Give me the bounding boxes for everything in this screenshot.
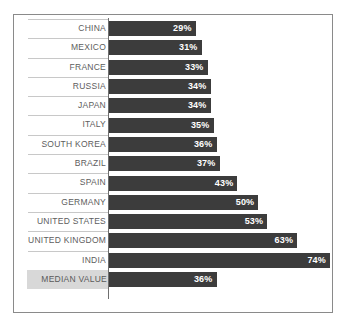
bar: 63% — [109, 233, 297, 248]
bar-value-label: 53% — [245, 214, 264, 229]
chart-row: JAPAN34% — [14, 96, 332, 115]
bar-track: 34% — [109, 79, 330, 94]
bar-track: 29% — [109, 21, 330, 36]
bar-value-label: 31% — [179, 40, 198, 55]
bar-value-label: 36% — [194, 137, 213, 152]
bar: 34% — [109, 98, 211, 113]
bar: 74% — [109, 253, 330, 268]
bar-track: 35% — [109, 118, 330, 133]
bar: 36% — [109, 137, 217, 152]
bar-track: 43% — [109, 176, 330, 191]
bar-value-label: 29% — [173, 21, 192, 36]
chart-row: GERMANY50% — [14, 193, 332, 212]
bar: 43% — [109, 176, 237, 191]
category-label: SPAIN — [28, 173, 106, 192]
bar-track: 74% — [109, 253, 330, 268]
category-label: INDIA — [28, 251, 106, 270]
bar-value-label: 63% — [275, 233, 294, 248]
plot-area: CHINA29%MEXICO31%FRANCE33%RUSSIA34%JAPAN… — [14, 15, 332, 312]
bar-track: 31% — [109, 40, 330, 55]
median-row-label: MEDIAN VALUE — [27, 270, 108, 289]
bar-value-label: 37% — [197, 156, 216, 171]
chart-row: CHINA29% — [14, 19, 332, 38]
chart-row: SOUTH KOREA36% — [14, 135, 332, 154]
chart-row: BRAZIL37% — [14, 154, 332, 173]
bar: 31% — [109, 40, 202, 55]
bar-chart: CHINA29%MEXICO31%FRANCE33%RUSSIA34%JAPAN… — [0, 0, 346, 329]
bar-track: 50% — [109, 195, 330, 210]
chart-row: UNITED KINGDOM63% — [14, 231, 332, 250]
category-label: JAPAN — [28, 96, 106, 115]
chart-row: MEDIAN VALUE36% — [14, 270, 332, 289]
bar: 35% — [109, 118, 214, 133]
category-label: GERMANY — [28, 193, 106, 212]
bar-track: 36% — [109, 137, 330, 152]
chart-row: SPAIN43% — [14, 173, 332, 192]
chart-row: MEXICO31% — [14, 38, 332, 57]
bar-value-label: 35% — [191, 118, 210, 133]
chart-row: ITALY35% — [14, 115, 332, 134]
chart-row: FRANCE33% — [14, 58, 332, 77]
category-label: RUSSIA — [28, 77, 106, 96]
bar-value-label: 33% — [185, 60, 204, 75]
bar-value-label: 34% — [188, 98, 207, 113]
bar-track: 34% — [109, 98, 330, 113]
category-label: UNITED KINGDOM — [28, 231, 106, 250]
chart-row: RUSSIA34% — [14, 77, 332, 96]
bar-track: 33% — [109, 60, 330, 75]
bar: 33% — [109, 60, 208, 75]
bar: 29% — [109, 21, 196, 36]
category-label: CHINA — [28, 19, 106, 38]
chart-rows: CHINA29%MEXICO31%FRANCE33%RUSSIA34%JAPAN… — [14, 19, 332, 289]
category-label: SOUTH KOREA — [28, 135, 106, 154]
bar-value-label: 34% — [188, 79, 207, 94]
chart-frame: CHINA29%MEXICO31%FRANCE33%RUSSIA34%JAPAN… — [13, 14, 333, 313]
bar-track: 53% — [109, 214, 330, 229]
bar: 34% — [109, 79, 211, 94]
category-label: ITALY — [28, 115, 106, 134]
bar: 50% — [109, 195, 258, 210]
bar: 53% — [109, 214, 267, 229]
bar-value-label: 36% — [194, 272, 213, 287]
category-label: MEXICO — [28, 38, 106, 57]
category-label: BRAZIL — [28, 154, 106, 173]
bar: 36% — [109, 272, 217, 287]
bar-track: 37% — [109, 156, 330, 171]
bar-track: 36% — [109, 272, 330, 287]
bar-track: 63% — [109, 233, 330, 248]
chart-row: UNITED STATES53% — [14, 212, 332, 231]
bar-value-label: 74% — [307, 253, 326, 268]
bar: 37% — [109, 156, 220, 171]
category-label: FRANCE — [28, 58, 106, 77]
category-label: UNITED STATES — [28, 212, 106, 231]
bar-value-label: 50% — [236, 195, 255, 210]
bar-value-label: 43% — [215, 176, 234, 191]
chart-row: INDIA74% — [14, 251, 332, 270]
